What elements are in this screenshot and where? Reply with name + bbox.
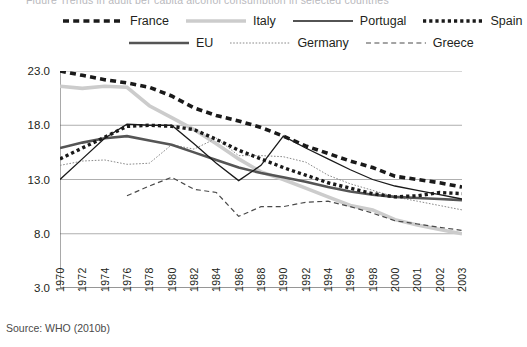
y-tick-label: 3.0 [34, 282, 50, 294]
legend-item-germany[interactable]: Germany [229, 36, 348, 50]
x-tick-label: 1978 [143, 267, 155, 292]
x-tick-label: 1986 [233, 267, 245, 292]
x-tick-label: 2002 [434, 267, 446, 292]
legend-line-swatch-portugal [292, 15, 354, 27]
x-tick-label: 1984 [210, 267, 222, 292]
y-tick-label: 23.0 [28, 65, 50, 77]
legend-line-swatch-italy [185, 15, 247, 27]
legend-line-swatch-spain [422, 15, 484, 27]
plot-area [60, 71, 462, 288]
x-tick-label: 1974 [99, 267, 111, 292]
legend-line-swatch-france [62, 15, 124, 27]
legend-item-greece[interactable]: Greece [365, 36, 474, 50]
legend-item-portugal[interactable]: Portugal [292, 14, 407, 28]
y-tick-label: 18.0 [28, 119, 50, 131]
legend-label: Spain [490, 14, 522, 28]
series-line-italy [60, 86, 462, 234]
x-tick-label: 1972 [76, 267, 88, 292]
x-tick-label: 1988 [255, 267, 267, 292]
legend-row-top: FranceItalyPortugalSpain [0, 10, 527, 31]
chart-legend: FranceItalyPortugalSpain EUGermanyGreece [0, 8, 482, 54]
legend-label: Portugal [360, 14, 407, 28]
y-tick-label: 8.0 [34, 228, 50, 240]
x-tick-label: 1998 [367, 267, 379, 292]
x-axis-tick-labels: 1970197219741976197819801982198419861988… [60, 292, 462, 338]
legend-item-france[interactable]: France [62, 14, 169, 28]
x-tick-label: 1982 [188, 267, 200, 292]
legend-line-swatch-greece [365, 37, 427, 49]
x-tick-label: 2001 [411, 267, 423, 292]
y-axis-tick-labels: 3.08.013.018.023.0 [0, 71, 60, 291]
legend-line-swatch-germany [229, 37, 291, 49]
x-tick-label: 1980 [166, 267, 178, 292]
x-tick-label: 1992 [300, 267, 312, 292]
series-line-eu [60, 136, 462, 200]
legend-label: EU [196, 36, 213, 50]
y-tick-label: 13.0 [28, 174, 50, 186]
legend-row-bottom: EUGermanyGreece [0, 32, 527, 53]
legend-label: Greece [433, 36, 474, 50]
figure-title-clipped: Figure Trends in adult per capita alcoho… [26, 0, 466, 4]
x-tick-label: 1996 [344, 267, 356, 292]
x-tick-label: 1994 [322, 267, 334, 292]
line-chart-svg [60, 71, 462, 288]
legend-label: Germany [297, 36, 348, 50]
x-tick-label: 1990 [277, 267, 289, 292]
legend-label: Italy [253, 14, 276, 28]
legend-line-swatch-eu [128, 37, 190, 49]
legend-item-spain[interactable]: Spain [422, 14, 522, 28]
x-tick-label: 1976 [121, 267, 133, 292]
x-tick-label: 1970 [54, 267, 66, 292]
legend-item-eu[interactable]: EU [128, 36, 213, 50]
x-tick-label: 2000 [389, 267, 401, 292]
source-note: Source: WHO (2010b) [6, 322, 110, 334]
legend-item-italy[interactable]: Italy [185, 14, 276, 28]
legend-label: France [130, 14, 169, 28]
series-line-portugal [60, 124, 462, 199]
x-tick-label: 2003 [456, 267, 468, 292]
